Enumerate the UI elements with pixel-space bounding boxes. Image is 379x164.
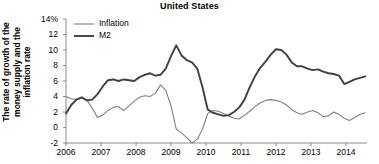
data-series: [66, 45, 365, 143]
y-axis-tick-label: 6: [34, 76, 58, 86]
x-axis-tick-label: 2013: [294, 147, 328, 157]
y-axis-tick-label: 10: [34, 45, 58, 55]
x-axis-tick-label: 2011: [224, 147, 258, 157]
series-line-m2: [66, 45, 365, 116]
x-axis-tick-label: 2009: [154, 147, 188, 157]
chart-figure: United States The rate of growth of the …: [0, 0, 379, 164]
x-axis-tick-label: 2008: [119, 147, 153, 157]
y-axis-tick-label: 8: [34, 60, 58, 70]
legend-label-inflation: Inflation: [99, 18, 129, 28]
legend-label-m2: M2: [99, 30, 111, 40]
y-axis-tick-label: 14%: [34, 14, 58, 24]
x-axis-tick-label: 2014: [329, 147, 363, 157]
y-axis-tick-label: 4: [34, 91, 58, 101]
x-axis-tick-label: 2010: [189, 147, 223, 157]
y-axis-tick-label: 12: [34, 29, 58, 39]
legend-lines: [74, 24, 94, 36]
x-axis-tick-label: 2012: [259, 147, 293, 157]
y-axis-tick-label: 2: [34, 107, 58, 117]
y-axis-tick-label: -2: [34, 138, 58, 148]
y-axis-tick-label: 0: [34, 122, 58, 132]
x-axis-tick-label: 2006: [49, 147, 83, 157]
x-axis-tick-label: 2007: [84, 147, 118, 157]
